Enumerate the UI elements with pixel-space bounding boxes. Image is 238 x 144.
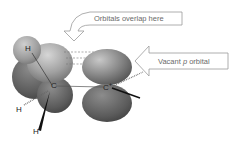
atom-c-left: C <box>51 81 57 90</box>
atom-h-top: H <box>25 44 31 53</box>
atom-h-left: H <box>16 105 22 114</box>
atom-c-right: C+ <box>103 81 112 92</box>
vacant-label-prefix: Vacant <box>158 57 183 66</box>
atom-h-bottom: H <box>33 127 39 136</box>
atom-c-right-charge: + <box>109 81 113 87</box>
vacant-orbital-label: Vacant p orbital <box>158 57 210 66</box>
vacant-label-suffix: orbital <box>187 57 210 66</box>
overlap-label: Orbitals overlap here <box>94 14 164 23</box>
hyperconjugation-diagram: Orbitals overlap here Vacant p orbital H… <box>0 0 238 144</box>
